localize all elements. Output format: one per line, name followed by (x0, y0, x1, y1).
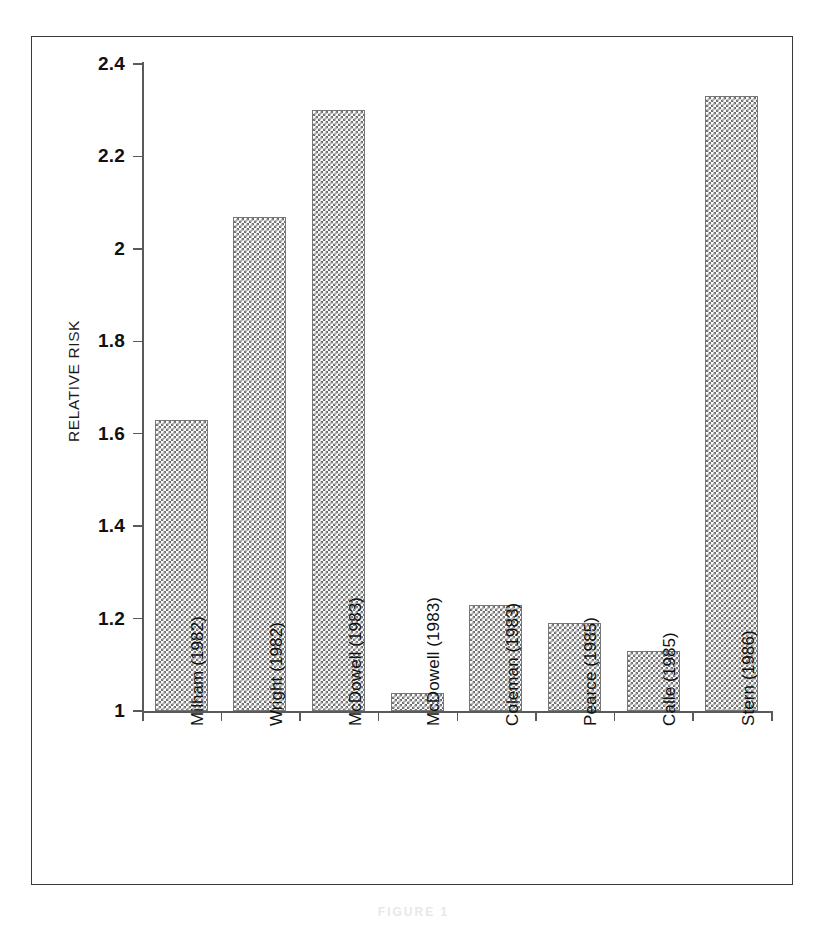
x-axis-label-7: Stern (1986) (739, 556, 759, 726)
bar-slot (614, 62, 693, 711)
bar-slot (535, 62, 614, 711)
x-tick-1 (221, 711, 223, 721)
x-axis-label-5: Pearce (1985) (581, 556, 601, 726)
bar-chart: RELATIVE RISK 11.21.41.61.822.22.4 Milha… (0, 0, 827, 925)
x-axis-label-2: McDowell (1983) (346, 556, 366, 726)
y-tick-label-2: 1.4 (65, 516, 125, 535)
y-tick-label-3: 1.6 (65, 424, 125, 443)
x-axis-label-1: Wright (1982) (267, 556, 287, 726)
x-axis-label-4: Coleman (1983) (503, 556, 523, 726)
bar-slot (221, 62, 300, 711)
y-tick-label-1: 1.2 (65, 609, 125, 628)
figure-caption: FIGURE 1 (0, 905, 827, 919)
x-tick-5 (535, 711, 537, 721)
y-tick-label-5: 2 (65, 239, 125, 258)
x-axis-label-3: McDowell (1983) (424, 556, 444, 726)
x-tick-6 (614, 711, 616, 721)
x-tick-2 (299, 711, 301, 721)
y-tick-label-4: 1.8 (65, 331, 125, 350)
x-axis-label-6: Calle (1985) (660, 556, 680, 726)
y-tick-label-0: 1 (65, 701, 125, 720)
x-axis-label-0: Milham (1982) (188, 556, 208, 726)
y-tick-label-6: 2.2 (65, 146, 125, 165)
bar-slot (299, 62, 378, 711)
x-tick-4 (457, 711, 459, 721)
bar-slot (378, 62, 457, 711)
x-tick-8 (771, 711, 773, 721)
bar-slot (692, 62, 771, 711)
x-tick-0 (142, 711, 144, 721)
bar-slot (457, 62, 536, 711)
y-tick-label-7: 2.4 (65, 54, 125, 73)
x-tick-7 (692, 711, 694, 721)
bar-slot (142, 62, 221, 711)
x-tick-3 (378, 711, 380, 721)
